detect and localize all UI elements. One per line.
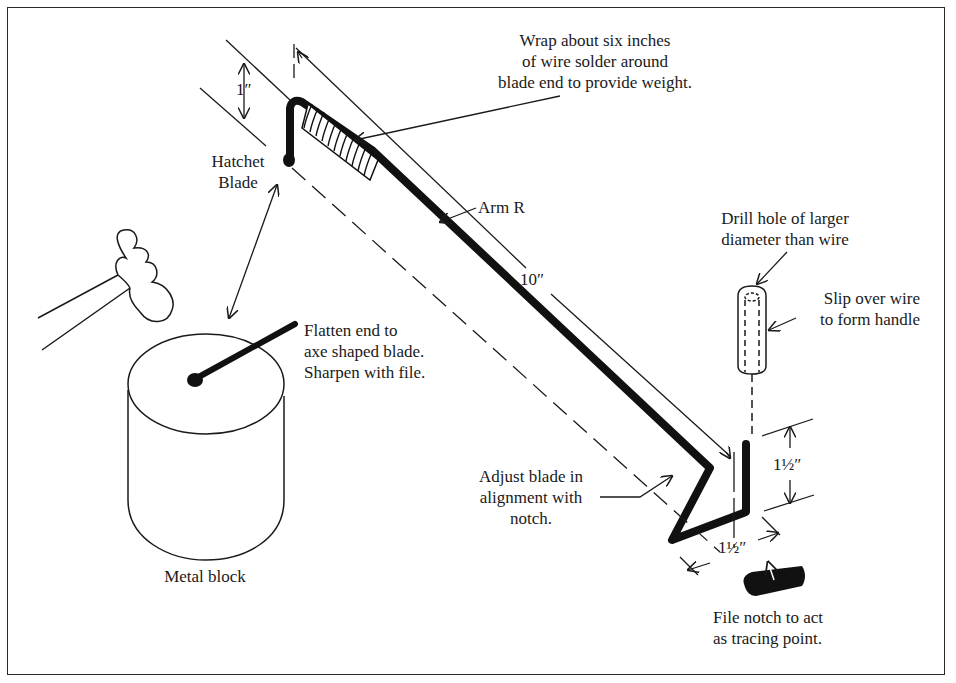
flatten-note-line-3: Sharpen with file. <box>304 362 425 383</box>
file-note: File notch to act as tracing point. <box>713 607 823 649</box>
metal-block-icon <box>128 334 284 560</box>
file-notch-icon <box>743 566 805 596</box>
adjust-leader <box>600 476 672 497</box>
hatchet-blade-line-1: Hatchet <box>202 151 274 172</box>
adjust-note-line-1: Adjust blade in <box>466 466 596 487</box>
drill-note-line-2: diameter than wire <box>700 229 870 250</box>
drill-note-line-1: Drill hole of larger <box>700 208 870 229</box>
arm-r-label: Arm R <box>478 197 525 218</box>
adjust-note: Adjust blade in alignment with notch. <box>466 466 596 529</box>
slip-note-line-1: Slip over wire <box>790 288 920 309</box>
tracer-offset-label: 1½″ <box>718 538 746 558</box>
wrap-note-line-1: Wrap about six inches <box>470 30 720 51</box>
blade-height-dimension: 1″ <box>236 80 252 100</box>
flatten-note-line-1: Flatten end to <box>304 320 425 341</box>
slip-note-line-2: to form handle <box>790 309 920 330</box>
metal-block-label: Metal block <box>140 566 270 587</box>
blade-to-block-arrow <box>229 185 277 318</box>
flatten-note: Flatten end to axe shaped blade. Sharpen… <box>304 320 425 383</box>
drill-leader <box>757 252 787 284</box>
hatchet-blade-label: Hatchet Blade <box>202 151 274 193</box>
wrap-note: Wrap about six inches of wire solder aro… <box>470 30 720 93</box>
drill-note: Drill hole of larger diameter than wire <box>700 208 870 250</box>
adjust-note-line-2: alignment with <box>466 487 596 508</box>
handle-sleeve-icon <box>738 286 766 436</box>
wrap-leader <box>355 96 560 140</box>
flatten-note-line-2: axe shaped blade. <box>304 341 425 362</box>
wrap-note-line-3: blade end to provide weight. <box>470 72 720 93</box>
wrap-note-line-2: of wire solder around <box>470 51 720 72</box>
slip-note: Slip over wire to form handle <box>790 288 920 330</box>
hatchet-blade-line-2: Blade <box>202 172 274 193</box>
adjust-note-line-3: notch. <box>466 508 596 529</box>
tracer-height-label: 1½″ <box>773 455 801 475</box>
arm-length-dimension: 10″ <box>520 270 544 290</box>
file-note-line-2: as tracing point. <box>713 628 823 649</box>
file-note-line-1: File notch to act <box>713 607 823 628</box>
hatchet-blade-tip <box>283 153 295 167</box>
hammer-icon <box>38 230 173 350</box>
